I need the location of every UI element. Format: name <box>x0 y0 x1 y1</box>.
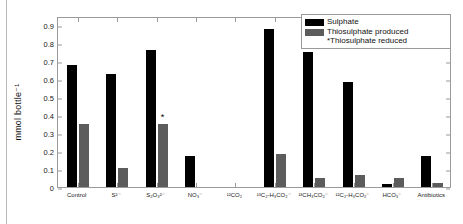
bar-thiosulphate <box>433 183 443 187</box>
bar-thiosulphate <box>118 168 128 187</box>
x-tick-mark <box>117 18 118 22</box>
y-tick-mark <box>446 171 450 172</box>
y-tick-mark <box>446 189 450 190</box>
y-tick-mark <box>446 81 450 82</box>
x-tick-label: NO₃⁻ <box>188 192 202 198</box>
legend-item-thiosulphate-reduced: *Thiosulphate reduced <box>305 36 446 46</box>
y-tick-label: 0.5 <box>44 95 54 103</box>
bar-sulphate <box>146 50 156 187</box>
bar-sulphate <box>421 156 431 188</box>
x-tick-label: Antibiotics <box>418 192 445 198</box>
y-tick-label: 0.4 <box>44 113 54 121</box>
y-tick-mark <box>58 117 62 118</box>
y-tick-mark <box>58 171 62 172</box>
y-tick-mark <box>446 153 450 154</box>
y-tick-label: 0.8 <box>44 41 54 49</box>
y-tick-label: 0.2 <box>44 149 54 157</box>
legend-label-sulphate: Sulphate <box>327 18 359 26</box>
bar-sulphate <box>343 82 353 187</box>
x-tick-label: S₂O₃²⁻ <box>146 192 164 198</box>
y-tick-label: 0.1 <box>44 167 54 175</box>
y-tick-mark <box>58 27 62 28</box>
y-tick-mark <box>446 99 450 100</box>
x-tick-mark <box>196 183 197 187</box>
y-tick-mark <box>58 189 62 190</box>
x-tick-label: Control <box>67 192 86 198</box>
x-tick-mark <box>157 18 158 22</box>
x-tick-mark <box>235 183 236 187</box>
y-tick-label: 0.6 <box>44 77 54 85</box>
y-tick-mark <box>58 45 62 46</box>
y-tick-label: 0.9 <box>44 23 54 31</box>
bar-thiosulphate <box>394 178 404 187</box>
bar-thiosulphate <box>276 154 286 187</box>
y-tick-mark <box>58 81 62 82</box>
bar-sulphate <box>382 184 392 187</box>
x-tick-label: S²⁻ <box>112 192 121 198</box>
x-tick-mark <box>235 18 236 22</box>
y-tick-label: 0.3 <box>44 131 54 139</box>
x-tick-label: ¹²CO₂ <box>227 192 242 198</box>
bar-thiosulphate <box>79 124 89 187</box>
x-tick-mark <box>78 18 79 22</box>
x-tick-label: HCO₃⁻ <box>383 192 402 198</box>
bar-thiosulphate <box>315 178 325 187</box>
bar-sulphate <box>185 156 195 187</box>
x-tick-mark <box>275 18 276 22</box>
legend-label-thiosulphate-reduced: *Thiosulphate reduced <box>327 37 407 45</box>
bar-sulphate <box>106 74 116 187</box>
annotation-asterisk: * <box>161 113 165 122</box>
y-tick-mark <box>446 63 450 64</box>
bar-sulphate <box>264 29 274 187</box>
y-tick-label: 0 <box>50 185 54 193</box>
y-tick-mark <box>58 99 62 100</box>
x-tick-mark <box>196 18 197 22</box>
figure-canvas: mmol bottle⁻¹ * 00.10.20.30.40.50.60.70.… <box>0 0 463 224</box>
y-tick-mark <box>446 135 450 136</box>
bar-thiosulphate <box>158 124 168 187</box>
y-tick-mark <box>58 63 62 64</box>
y-axis-title: mmol bottle⁻¹ <box>13 83 23 140</box>
legend-item-sulphate: Sulphate <box>305 17 446 27</box>
y-tick-mark <box>58 135 62 136</box>
y-tick-label: 0.7 <box>44 59 54 67</box>
chart-legend: Sulphate Thiosulphate produced *Thiosulp… <box>301 14 451 49</box>
legend-label-thiosulphate-produced: Thiosulphate produced <box>327 28 408 36</box>
x-tick-label: ¹³C₂-H₃CO₂⁻ <box>257 192 291 198</box>
y-tick-mark <box>446 117 450 118</box>
y-tick-mark <box>58 153 62 154</box>
legend-swatch-thiosulphate-icon <box>305 29 324 36</box>
bar-thiosulphate <box>355 175 365 187</box>
figure-left-rule <box>6 0 7 224</box>
legend-spacer-icon <box>305 38 324 45</box>
x-tick-label: ¹²C₂-H₃CO₂⁻ <box>336 192 370 198</box>
x-tick-label: ¹³CH₃CO₂⁻ <box>298 192 327 198</box>
bar-sulphate <box>67 65 77 187</box>
bar-sulphate <box>303 52 313 187</box>
legend-swatch-sulphate-icon <box>305 19 324 26</box>
